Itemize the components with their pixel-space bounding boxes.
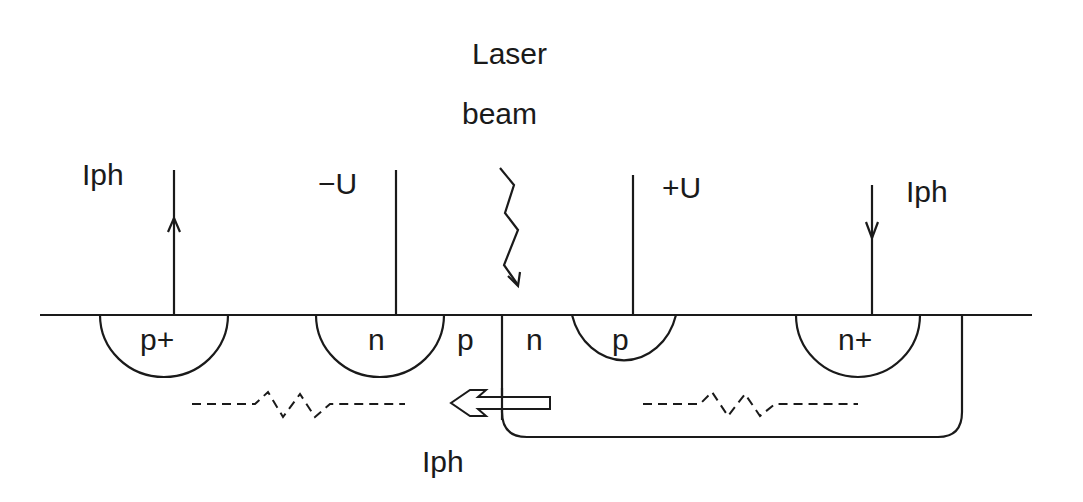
title-line-2: beam [462, 97, 537, 130]
region-label-p-plus: p+ [140, 323, 174, 356]
region-label-p-right: p [612, 323, 629, 356]
region-label-n-plus: n+ [838, 323, 872, 356]
photodiode-cross-section-diagram: Laser beam p+ Iph n −U p n p +U n+ Iph I… [0, 0, 1083, 502]
title-line-1: Laser [472, 37, 547, 70]
region-label-n-well: n [526, 323, 543, 356]
plus-u-label: +U [662, 171, 701, 204]
carrier-path-right-icon [643, 392, 858, 416]
current-flow-arrow-icon [451, 390, 550, 416]
iph-left-label: Iph [82, 158, 124, 191]
iph-bottom-label: Iph [422, 445, 464, 478]
iph-right-label: Iph [906, 175, 948, 208]
carrier-path-left-icon [192, 392, 405, 417]
region-label-p-substrate: p [457, 323, 474, 356]
minus-u-label: −U [318, 167, 357, 200]
region-label-n-left: n [368, 323, 385, 356]
n-well-outline [502, 315, 962, 437]
laser-beam-icon [500, 168, 518, 285]
